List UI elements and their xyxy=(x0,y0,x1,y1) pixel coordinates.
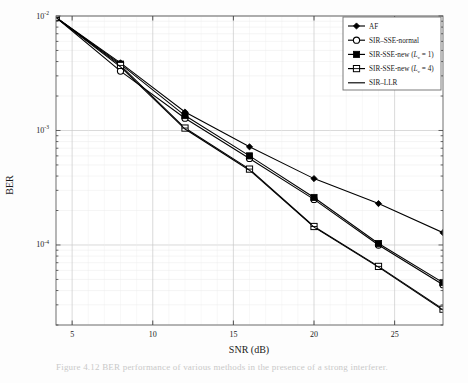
data-marker xyxy=(246,153,252,159)
figure-container: 51015202510-210-310-4 SNR (dB) BER AFSIR… xyxy=(0,0,468,383)
legend-label: AF xyxy=(369,23,378,31)
x-tick-label: 20 xyxy=(310,330,318,339)
legend-label: SIR–LLR xyxy=(369,79,398,87)
x-tick-label: 5 xyxy=(70,330,74,339)
x-tick-label: 25 xyxy=(391,330,399,339)
x-axis-title: SNR (dB) xyxy=(229,344,269,356)
legend-label: SIR-SSE-new (Lv = 4) xyxy=(369,65,434,74)
data-marker xyxy=(353,37,359,43)
y-axis-title: BER xyxy=(4,175,15,195)
y-tick-label: 10-2 xyxy=(36,10,49,21)
legend-label: SIR-SSE-new (Lv = 1) xyxy=(369,51,434,60)
chart-legend[interactable]: AFSIR–SSE-normalSIR-SSE-new (Lv = 1)SIR-… xyxy=(343,17,441,90)
legend-label: SIR–SSE-normal xyxy=(369,37,419,45)
ber-vs-snr-chart: 51015202510-210-310-4 SNR (dB) BER AFSIR… xyxy=(0,0,468,383)
data-marker xyxy=(353,51,359,57)
figure-caption: Figure 4.12 BER performance of various m… xyxy=(56,362,456,372)
x-tick-label: 15 xyxy=(229,330,237,339)
y-tick-label: 10-4 xyxy=(36,239,49,250)
x-tick-label: 10 xyxy=(149,330,157,339)
data-marker xyxy=(182,112,188,118)
y-tick-label: 10-3 xyxy=(36,124,49,135)
data-marker xyxy=(311,194,317,200)
data-marker xyxy=(375,240,381,246)
